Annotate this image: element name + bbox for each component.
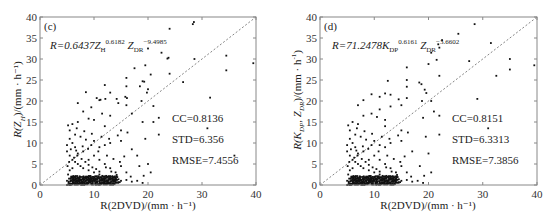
data-point	[103, 181, 105, 183]
panel-tag-d: (d)	[324, 20, 337, 32]
data-point	[366, 179, 368, 181]
data-point	[390, 106, 392, 108]
data-point	[106, 180, 108, 182]
data-point	[93, 119, 95, 121]
data-point	[356, 175, 358, 177]
data-point	[363, 180, 365, 182]
y-axis-label-unit: )/(mm · h⁻¹)	[11, 61, 23, 116]
data-point	[360, 136, 362, 138]
data-point	[349, 183, 351, 185]
formula-mid: Z	[125, 39, 134, 51]
y-tick-label: 40	[26, 11, 38, 23]
data-point	[69, 183, 71, 185]
formula-sub2: DR	[134, 46, 144, 54]
data-point	[136, 180, 138, 182]
data-point	[406, 179, 408, 181]
data-point	[361, 158, 363, 160]
data-point	[66, 180, 68, 182]
data-point	[124, 96, 126, 98]
data-point	[398, 181, 400, 183]
data-point	[73, 157, 75, 159]
data-point	[406, 79, 408, 81]
data-point	[398, 178, 400, 180]
data-point	[354, 134, 356, 136]
data-point	[425, 136, 427, 138]
data-point	[96, 97, 98, 99]
data-point	[354, 146, 356, 148]
data-point	[358, 179, 360, 181]
data-point	[389, 182, 391, 184]
data-point	[349, 169, 351, 171]
data-point	[88, 169, 90, 171]
data-point	[167, 58, 169, 60]
data-point	[138, 165, 140, 167]
data-point	[422, 182, 424, 184]
data-point	[392, 175, 394, 177]
data-point	[72, 159, 74, 161]
data-point	[71, 179, 73, 181]
data-point	[352, 176, 354, 178]
data-point	[386, 180, 388, 182]
data-point	[93, 140, 95, 142]
data-point	[130, 176, 132, 178]
data-point	[395, 172, 397, 174]
data-point	[376, 116, 378, 118]
data-point	[373, 172, 375, 174]
data-point	[209, 97, 211, 99]
data-point	[117, 181, 119, 183]
data-point	[383, 181, 385, 183]
data-point	[80, 180, 82, 182]
formula-sup1: 0.6161	[398, 38, 417, 46]
data-point	[85, 139, 87, 141]
data-point	[375, 175, 377, 177]
data-point	[103, 178, 105, 180]
data-point	[139, 85, 141, 87]
data-point	[91, 133, 93, 135]
data-point	[349, 155, 351, 157]
data-point	[114, 182, 116, 184]
data-point	[98, 176, 100, 178]
data-point	[386, 175, 388, 177]
data-point	[381, 136, 383, 138]
data-point	[533, 64, 535, 66]
data-point	[357, 104, 359, 106]
data-point	[67, 124, 69, 126]
data-point	[110, 171, 112, 173]
data-point	[90, 144, 92, 146]
data-point	[78, 179, 80, 181]
data-point	[368, 159, 370, 161]
data-point	[77, 163, 79, 165]
data-point	[95, 168, 97, 170]
data-point	[88, 159, 90, 161]
data-point	[109, 177, 111, 179]
data-point	[379, 144, 381, 146]
data-point	[390, 94, 392, 96]
data-point	[194, 58, 196, 60]
data-point	[375, 182, 377, 184]
data-point	[100, 178, 102, 180]
data-point	[378, 151, 380, 153]
data-point	[115, 172, 117, 174]
data-point	[93, 172, 95, 174]
data-point	[371, 113, 373, 115]
data-point	[76, 127, 78, 129]
data-point	[368, 169, 370, 171]
data-point	[118, 178, 120, 180]
data-point	[348, 181, 350, 183]
y-tick-label: 25	[26, 74, 38, 86]
data-point	[109, 182, 111, 184]
data-point	[89, 176, 91, 178]
data-point	[354, 181, 356, 183]
data-point	[101, 136, 103, 138]
data-point	[423, 175, 425, 177]
data-point	[349, 138, 351, 140]
data-point	[372, 166, 374, 168]
data-point	[410, 176, 412, 178]
data-point	[193, 21, 195, 23]
data-point	[207, 127, 209, 129]
data-point	[252, 62, 254, 64]
data-point	[153, 105, 155, 107]
data-point	[169, 73, 171, 75]
data-point	[366, 183, 368, 185]
fit-formula-c: R=0.6437ZH0.6182 ZDR−9.4985	[50, 38, 167, 54]
